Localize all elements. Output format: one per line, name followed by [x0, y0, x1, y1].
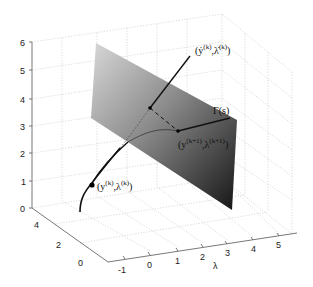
- x-tick-label: 4: [251, 244, 256, 254]
- z-axis-ticks: 6 5 4 3 2 1 0: [20, 38, 32, 214]
- next-point-marker: [176, 129, 180, 133]
- z-tick-label: 2: [20, 149, 25, 159]
- y-tick-label: 4: [34, 220, 39, 230]
- x-tick-label: 2: [200, 252, 205, 262]
- z-tick-label: 0: [20, 204, 25, 214]
- z-tick-label: 4: [20, 95, 25, 105]
- z-tick-label: 6: [20, 38, 25, 48]
- x-axis-label: λ: [213, 261, 218, 271]
- predictor-point-label: (ẏ(k),λ̇(k)): [195, 43, 230, 57]
- current-point-marker: [89, 182, 94, 187]
- x-tick-label: 1: [175, 256, 180, 266]
- x-tick-label: 3: [225, 248, 230, 258]
- gamma-curve-label: Γ(s): [213, 105, 229, 117]
- z-tick-label: 1: [21, 177, 26, 187]
- y-tick-label: 0: [78, 258, 83, 268]
- curves: [80, 142, 128, 212]
- predictor-point-marker: [148, 106, 152, 110]
- 3d-plot-figure: 6 5 4 3 2 1 0 4 2 0 -1 0 1 2 3 4 5 λ: [0, 0, 313, 287]
- x-tick-label: 0: [147, 260, 152, 270]
- z-tick-label: 3: [20, 122, 25, 132]
- x-tick-label: -1: [118, 265, 126, 275]
- z-tick-label: 5: [20, 66, 25, 76]
- y-tick-label: 2: [56, 240, 61, 250]
- x-tick-label: 5: [276, 240, 281, 250]
